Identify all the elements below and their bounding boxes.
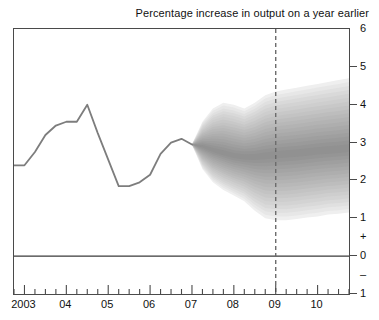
y-tick-mark xyxy=(350,255,357,256)
fan-chart: Percentage increase in output on a year … xyxy=(0,0,379,320)
y-tick-mark xyxy=(350,217,357,218)
y-tick-label: 0 xyxy=(360,249,366,261)
y-tick-mark xyxy=(350,66,357,67)
chart-title: Percentage increase in output on a year … xyxy=(0,7,369,19)
x-tick-label: 08 xyxy=(227,298,239,310)
x-tick-label: 10 xyxy=(310,298,322,310)
x-tick-label: 06 xyxy=(143,298,155,310)
x-tick-label: 2003 xyxy=(11,298,35,310)
y-tick-label: 4 xyxy=(360,98,366,110)
y-tick-label: 3 xyxy=(360,136,366,148)
y-tick-label: 2 xyxy=(360,173,366,185)
y-tick-label: 1 xyxy=(360,211,366,223)
y-tick-mark xyxy=(350,142,357,143)
y-tick-mark xyxy=(350,179,357,180)
x-minor-ticks xyxy=(14,285,349,294)
y-axis-sign-plus: + xyxy=(360,230,366,242)
x-tick-label: 07 xyxy=(185,298,197,310)
y-axis: 65432101+– xyxy=(350,28,379,303)
y-tick-mark xyxy=(350,293,357,294)
x-tick-label: 09 xyxy=(269,298,281,310)
chart-title-text: Percentage increase in output on a year … xyxy=(0,0,1,1)
fan-bands xyxy=(192,78,349,220)
y-tick-mark xyxy=(350,104,357,105)
y-tick-label: 5 xyxy=(360,60,366,72)
history-line xyxy=(14,105,192,186)
plot-area xyxy=(13,28,350,295)
y-axis-sign-minus: – xyxy=(360,268,366,280)
y-tick-label: 6 xyxy=(360,22,366,34)
x-axis: 200304050607080910 xyxy=(0,298,379,318)
x-tick-label: 05 xyxy=(101,298,113,310)
x-tick-label: 04 xyxy=(59,298,71,310)
plot-svg xyxy=(14,29,349,294)
